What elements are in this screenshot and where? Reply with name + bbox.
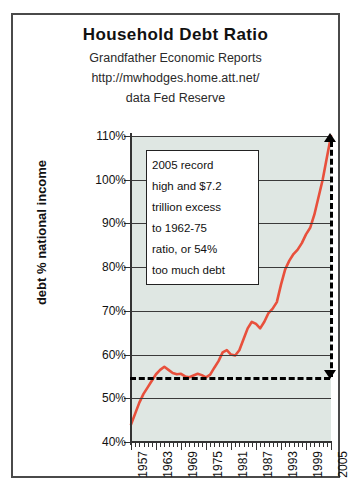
x-axis-tick <box>235 441 236 447</box>
x-axis-tick <box>223 441 224 447</box>
annotation-line: ratio, or 54% <box>152 239 253 260</box>
x-axis-tick <box>314 441 315 447</box>
x-axis-tick-label: 1957 <box>136 451 150 478</box>
x-axis-tick <box>148 441 149 447</box>
x-axis-tick <box>202 441 203 447</box>
x-axis-tick <box>264 441 265 447</box>
x-axis-tick <box>135 441 136 447</box>
gridline <box>131 311 331 312</box>
y-axis-tick-label: 90% <box>102 216 126 230</box>
x-axis-tick <box>277 441 278 447</box>
x-axis-tick <box>169 441 170 447</box>
x-axis-tick <box>210 441 211 447</box>
x-axis-tick-label: 1981 <box>236 451 250 478</box>
y-axis-tick-label: 70% <box>102 304 126 318</box>
y-axis-tick-label: 80% <box>102 260 126 274</box>
x-axis-tick <box>310 441 311 447</box>
x-axis-tick <box>269 441 270 447</box>
x-axis-tick <box>327 441 328 447</box>
x-axis-tick <box>185 441 186 447</box>
x-axis-tick <box>160 441 161 447</box>
y-axis-tick-labels: 110%100%90%80%70%60%50%40% <box>13 15 130 495</box>
x-axis-tick <box>156 441 157 450</box>
x-axis-tick <box>285 441 286 447</box>
x-axis-tick <box>244 441 245 447</box>
x-axis-tick <box>294 441 295 447</box>
x-axis-tick-label: 1975 <box>211 451 225 478</box>
annotation-line: too much debt <box>152 260 253 281</box>
arrow-head-up-icon <box>324 133 336 142</box>
x-axis-tick <box>319 441 320 447</box>
arrow-head-down-icon <box>324 370 336 379</box>
x-axis-tick <box>227 441 228 447</box>
x-axis-tick <box>206 441 207 450</box>
x-axis-tick <box>281 441 282 450</box>
annotation-box: 2005 recordhigh and $7.2trillion excesst… <box>146 150 259 285</box>
excess-arrow-line <box>330 141 333 377</box>
x-axis-tick <box>323 441 324 447</box>
x-axis-tick <box>331 441 332 450</box>
x-axis-tick <box>260 441 261 447</box>
y-axis-tick-label: 60% <box>102 348 126 362</box>
x-axis-tick <box>289 441 290 447</box>
x-axis-tick-label: 2005 <box>336 451 350 478</box>
x-axis-tick <box>131 441 132 450</box>
y-axis-tick-label: 50% <box>102 391 126 405</box>
x-axis-tick <box>152 441 153 447</box>
x-axis-tick <box>177 441 178 447</box>
x-axis-tick <box>248 441 249 447</box>
x-axis-tick <box>239 441 240 447</box>
x-axis-tick <box>302 441 303 447</box>
x-axis-tick <box>256 441 257 450</box>
gridline <box>131 355 331 356</box>
x-axis-tick <box>144 441 145 447</box>
x-axis-tick <box>181 441 182 450</box>
reference-line-54pct <box>130 377 330 380</box>
x-axis-tick <box>194 441 195 447</box>
chart-frame: Household Debt Ratio Grandfather Economi… <box>11 13 340 478</box>
y-axis-tick-label: 40% <box>102 435 126 449</box>
x-axis-tick <box>214 441 215 447</box>
x-axis-tick <box>139 441 140 447</box>
gridline <box>131 398 331 399</box>
x-axis-tick <box>252 441 253 447</box>
annotation-line: 2005 record <box>152 155 253 176</box>
annotation-line: high and $7.2 <box>152 176 253 197</box>
y-axis-tick-label: 110% <box>96 129 126 143</box>
x-axis-tick <box>164 441 165 447</box>
x-axis-tick <box>306 441 307 450</box>
annotation-line: to 1962-75 <box>152 218 253 239</box>
x-axis-tick-label: 1993 <box>286 451 300 478</box>
x-axis-tick <box>189 441 190 447</box>
annotation-line: trillion excess <box>152 197 253 218</box>
x-axis-tick <box>198 441 199 447</box>
y-axis-line <box>130 133 132 445</box>
x-axis-tick <box>298 441 299 447</box>
x-axis-tick <box>273 441 274 447</box>
x-axis-tick-label: 1969 <box>186 451 200 478</box>
y-axis-tick-label: 100% <box>95 173 126 187</box>
x-axis-tick <box>231 441 232 450</box>
x-axis-tick-label: 1987 <box>261 451 275 478</box>
gridline <box>131 136 331 137</box>
x-axis-tick <box>173 441 174 447</box>
x-axis-tick-label: 1963 <box>161 451 175 478</box>
x-axis-tick <box>219 441 220 447</box>
x-axis-tick-label: 1999 <box>311 451 325 478</box>
